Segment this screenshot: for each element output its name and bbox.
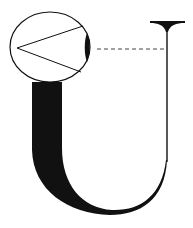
letter-u-diagram bbox=[0, 0, 193, 228]
u-thick-stroke bbox=[32, 82, 167, 215]
magnifier-circle bbox=[10, 12, 90, 82]
diagram-canvas bbox=[0, 0, 193, 228]
u-serif bbox=[150, 21, 185, 32]
